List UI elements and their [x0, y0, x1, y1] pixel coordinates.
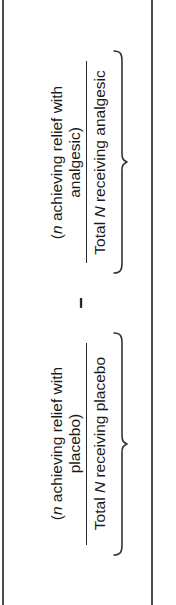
- numerator-text: achieving relief with: [48, 85, 65, 225]
- denominator-prefix: Total: [91, 493, 108, 530]
- term-analgesic: (n achieving relief with analgesic) Tota…: [48, 49, 128, 275]
- formula-figure: (n achieving relief with analgesic) Tota…: [0, 0, 176, 605]
- term-placebo: (n achieving relief with placebo) Total …: [48, 330, 128, 556]
- numerator-text-line2: analgesic): [66, 127, 83, 198]
- under-brace-icon-placebo: [113, 330, 128, 556]
- paren-open: (: [48, 515, 65, 520]
- formula-expression: (n achieving relief with analgesic) Tota…: [22, 23, 154, 583]
- numerator-text: achieving relief with: [48, 366, 65, 506]
- symbol-N: N: [91, 206, 108, 217]
- symbol-N: N: [91, 481, 108, 492]
- numerator-analgesic: (n achieving relief with analgesic): [48, 79, 86, 244]
- numerator-text-line2: placebo): [66, 413, 83, 472]
- symbol-n: n: [48, 506, 65, 515]
- denominator-prefix: Total: [91, 217, 108, 254]
- denominator-suffix: receiving placebo: [91, 356, 108, 481]
- paren-open: (: [48, 233, 65, 238]
- fraction-placebo: (n achieving relief with placebo) Total …: [48, 342, 109, 544]
- denominator-placebo: Total N receiving placebo: [87, 350, 108, 535]
- denominator-suffix: receiving analgesic: [91, 70, 108, 206]
- denominator-analgesic: Total N receiving analgesic: [87, 64, 108, 260]
- under-brace-icon-analgesic: [113, 49, 128, 275]
- numerator-placebo: (n achieving relief with placebo): [48, 360, 86, 525]
- fraction-analgesic: (n achieving relief with analgesic) Tota…: [48, 61, 109, 263]
- symbol-n: n: [48, 225, 65, 234]
- minus-operator: –: [68, 293, 91, 312]
- left-page-rule: [2, 0, 4, 605]
